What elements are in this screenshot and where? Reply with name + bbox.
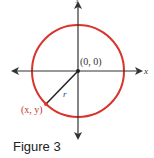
origin-label: (0, 0) xyxy=(80,56,102,68)
radius-line xyxy=(46,71,78,104)
point-label: (x, y) xyxy=(21,104,43,116)
point-on-circle xyxy=(44,102,48,106)
y-axis-label: y xyxy=(75,0,79,3)
x-axis-label: x xyxy=(143,66,148,76)
unit-circle-diagram: (0, 0) x y r (x, y) xyxy=(0,0,154,158)
figure-caption: Figure 3 xyxy=(13,139,61,154)
radius-label: r xyxy=(63,89,67,99)
origin-point xyxy=(76,69,80,73)
